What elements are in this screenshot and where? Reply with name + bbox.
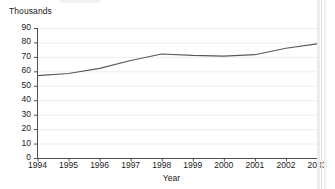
y-tick-marks	[34, 29, 38, 159]
x-axis-title: Year	[0, 173, 335, 183]
y-tick-label: 40	[5, 95, 31, 104]
y-tick-label: 50	[5, 81, 31, 90]
y-tick-label: 90	[5, 23, 31, 32]
y-tick-label: 30	[5, 110, 31, 119]
y-tick-label: 20	[5, 124, 31, 133]
data-series-line	[38, 44, 318, 76]
gridlines	[38, 29, 318, 145]
line-chart: Thousands 0102030405060708090 1994199519…	[0, 0, 335, 189]
x-axis-title-text: Year	[163, 173, 181, 183]
axis-lines	[38, 28, 318, 159]
x-tick-label: 2003	[297, 161, 335, 170]
y-tick-label: 60	[5, 66, 31, 75]
y-tick-label: 10	[5, 139, 31, 148]
y-tick-label: 80	[5, 37, 31, 46]
y-tick-label: 70	[5, 52, 31, 61]
